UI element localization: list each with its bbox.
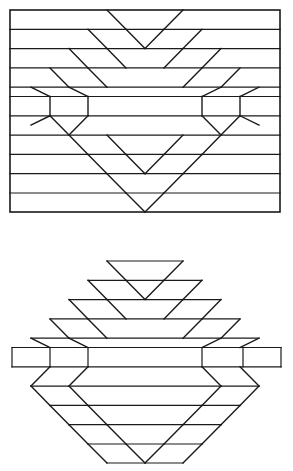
- figure-page: [0, 0, 293, 471]
- panel-bottom-horizontal-rules: [12, 261, 281, 463]
- panel-top-oblique-connectors: [31, 10, 259, 212]
- panel-bottom-end-tabs: [12, 348, 281, 367]
- panel-top-framed-chevron-figure: [0, 0, 293, 235]
- panel-bottom-unframed-chevron-figure: [0, 235, 293, 471]
- panel-bottom-oblique-connectors: [31, 261, 259, 463]
